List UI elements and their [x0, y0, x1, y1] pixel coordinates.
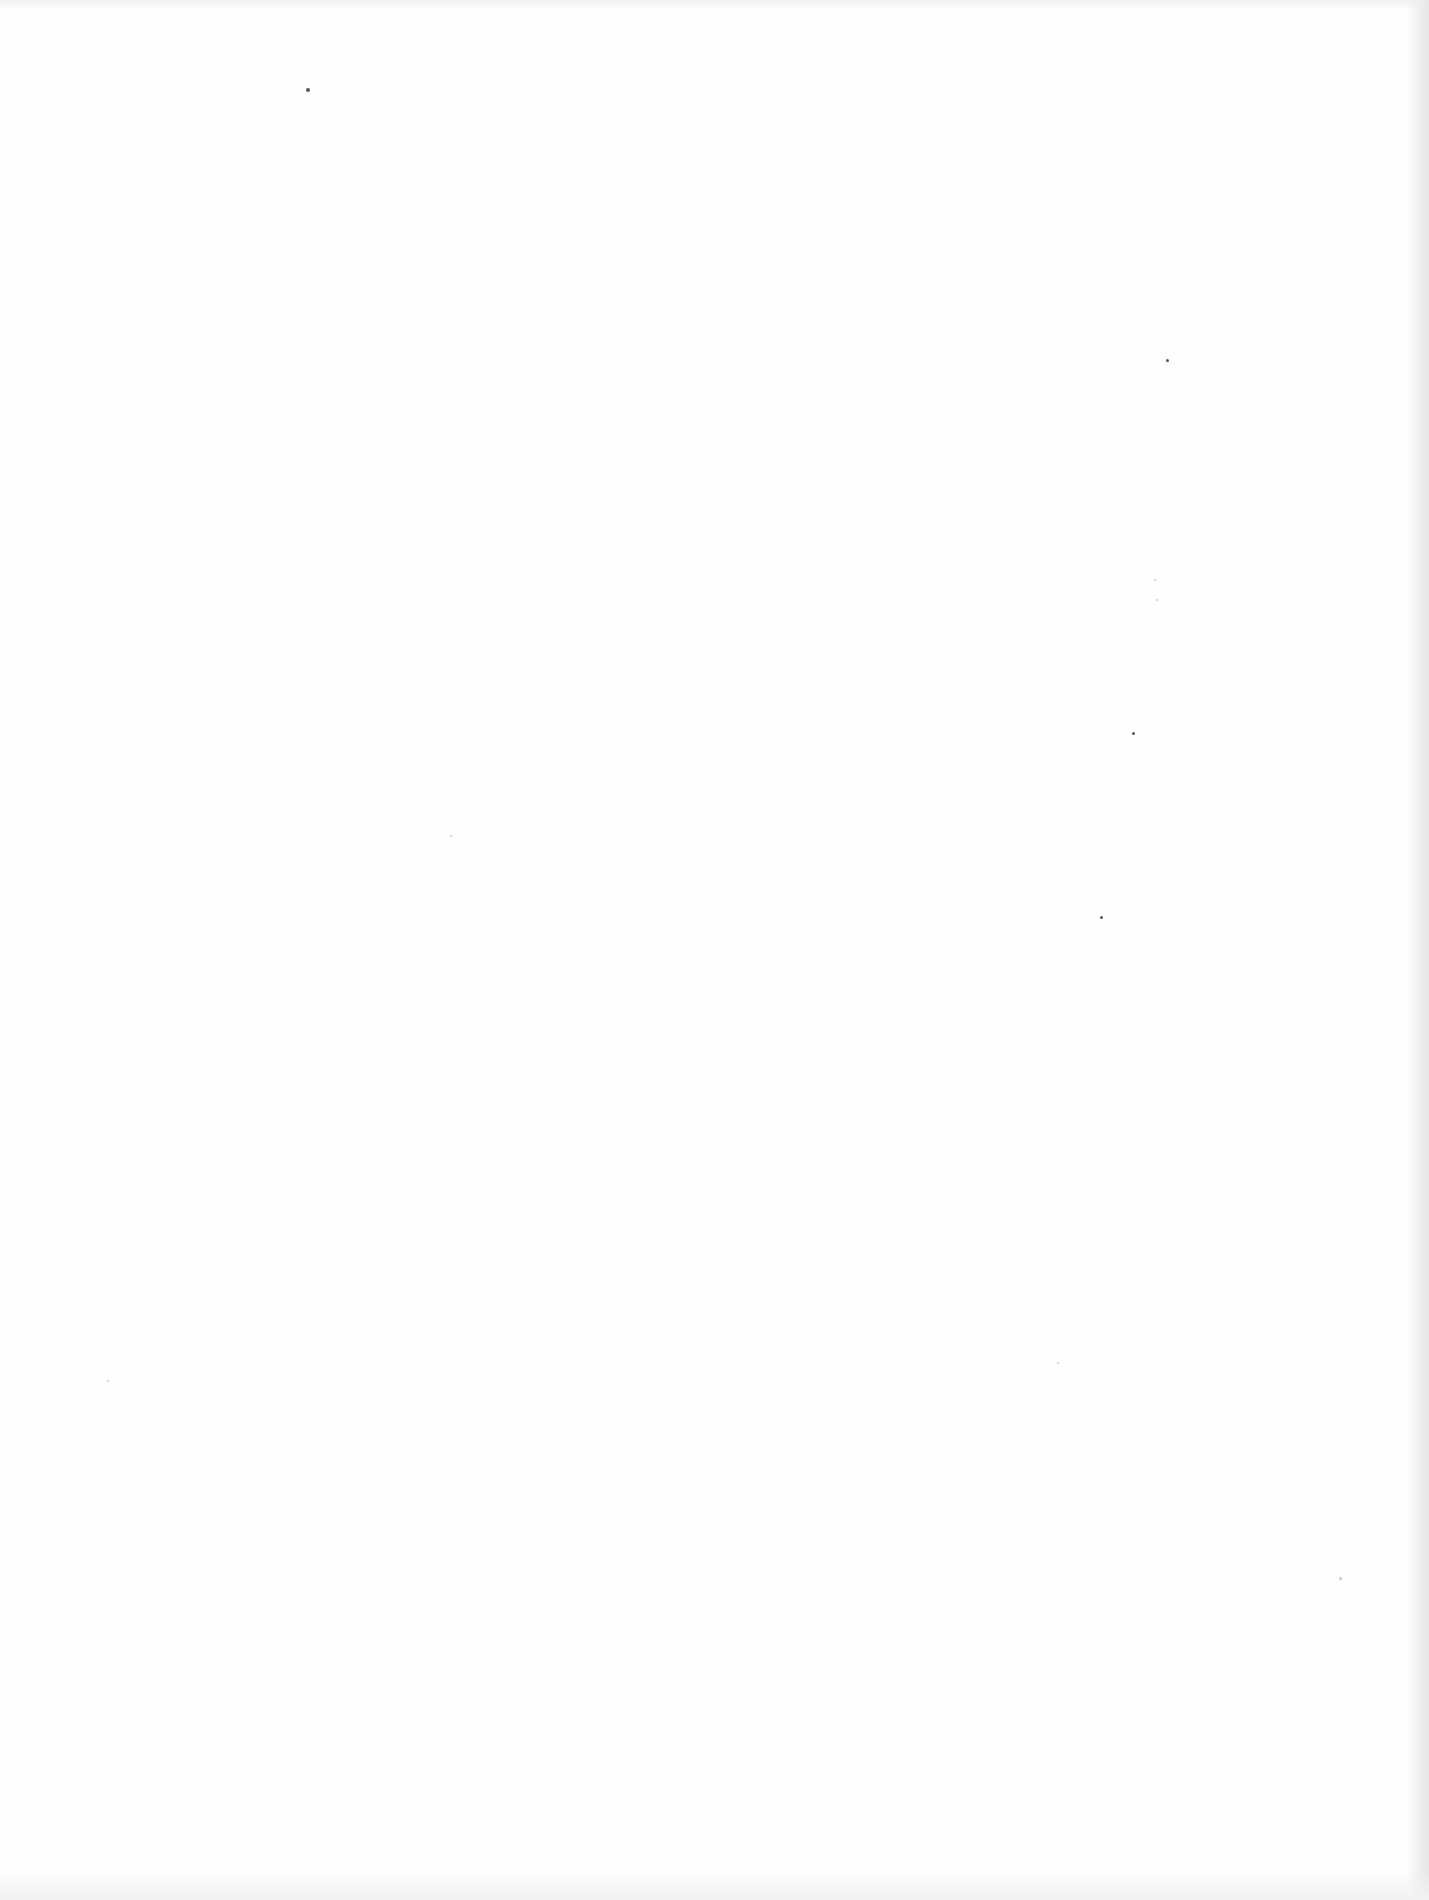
scan-speck	[1156, 599, 1158, 601]
scan-edge-bottom-shadow	[0, 1870, 1429, 1900]
scan-speck	[1339, 1577, 1342, 1580]
scan-speck	[1132, 732, 1135, 735]
scan-edge-top-shadow	[0, 0, 1429, 10]
scanned-blank-page	[0, 0, 1429, 1900]
scan-speck	[1154, 579, 1156, 581]
scan-speck	[306, 88, 310, 92]
scan-speck	[1100, 916, 1103, 919]
scan-speck	[1057, 1362, 1059, 1364]
scan-speck	[107, 1380, 109, 1382]
scan-speck	[450, 835, 452, 837]
scan-speck	[1166, 359, 1169, 362]
scan-edge-right-shadow	[1407, 0, 1429, 1900]
